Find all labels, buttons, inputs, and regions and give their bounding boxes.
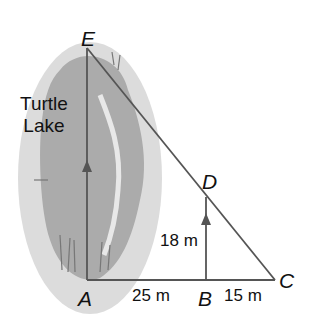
diagram-canvas [0, 0, 315, 320]
point-label-D: D [202, 171, 217, 192]
lake-label-line1: Turtle [20, 93, 68, 115]
lake-label-line2: Lake [20, 115, 68, 137]
measure-BD: 18 m [160, 232, 198, 249]
parallel-arrow-icon [201, 213, 211, 225]
measure-BC: 15 m [224, 287, 262, 304]
point-label-B: B [198, 288, 212, 309]
measure-AB: 25 m [132, 287, 170, 304]
point-label-C: C [279, 270, 294, 291]
lake-label: Turtle Lake [20, 93, 68, 137]
point-label-A: A [78, 288, 92, 309]
point-label-E: E [81, 28, 95, 49]
